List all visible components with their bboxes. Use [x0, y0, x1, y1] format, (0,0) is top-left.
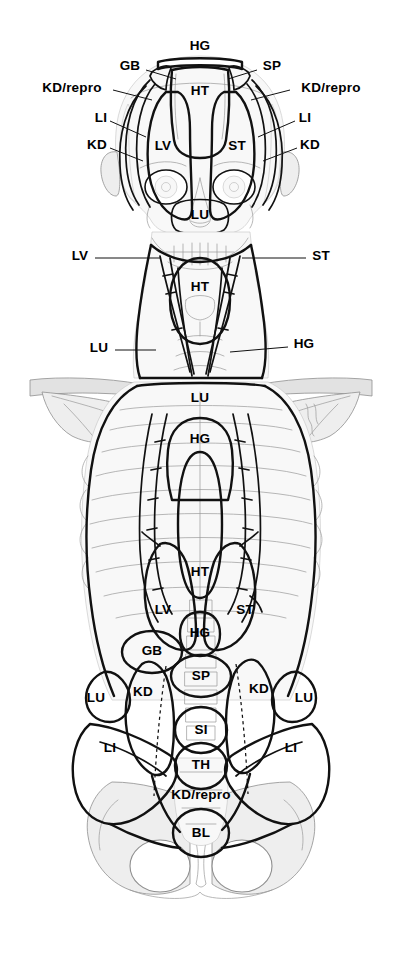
organ-label-lv-thorax: LV [155, 603, 172, 617]
organ-label-th-abdomen: TH [192, 758, 210, 772]
organ-label-ht-thorax: HT [191, 565, 209, 579]
organ-label-hg-thorax: HG [190, 432, 211, 446]
organ-label-lu-flank-left: LU [87, 691, 105, 705]
organ-label-li-pelvis-left: LI [104, 741, 116, 755]
organ-label-gb-head: GB [120, 59, 141, 73]
organ-label-lu-thorax-top: LU [191, 391, 209, 405]
organ-label-li-head-left: LI [95, 111, 107, 125]
organ-label-lu-head: LU [191, 208, 209, 222]
organ-label-st-neck: ST [312, 249, 330, 263]
organ-label-kd-abdomen-right: KD [249, 682, 269, 696]
organ-label-si-abdomen: SI [194, 723, 207, 737]
neck-region [133, 232, 269, 378]
organ-label-lv-head: LV [155, 139, 172, 153]
organ-label-ht-neck: HT [191, 280, 209, 294]
organ-label-kd-abdomen-left: KD [133, 685, 153, 699]
organ-label-gb-abdomen: GB [142, 644, 163, 658]
organ-label-kd-head-left: KD [87, 138, 107, 152]
organ-label-hg-abdomen: HG [190, 626, 211, 640]
organ-label-lu-flank-right: LU [295, 691, 313, 705]
organ-label-ht-head: HT [191, 84, 209, 98]
organ-label-li-head-right: LI [299, 111, 311, 125]
organ-label-kdrepro-pelvis: KD/repro [171, 788, 230, 802]
organ-label-st-thorax: ST [236, 603, 254, 617]
anatomical-diagram: .o { fill:none; stroke:#111; stroke-widt… [0, 0, 402, 958]
organ-label-kdrepro-head-left: KD/repro [42, 81, 101, 95]
organ-label-kd-head-right: KD [300, 138, 320, 152]
organ-label-st-head: ST [228, 139, 246, 153]
organ-label-sp-head: SP [263, 59, 281, 73]
organ-label-hg-neck: HG [294, 337, 315, 351]
body-outline-illustration: .o { fill:none; stroke:#111; stroke-widt… [0, 0, 402, 958]
organ-label-sp-abdomen: SP [192, 669, 210, 683]
organ-label-kdrepro-head-right: KD/repro [301, 81, 360, 95]
organ-label-hg-head-top: HG [190, 39, 211, 53]
organ-label-lu-neck: LU [90, 341, 108, 355]
organ-label-lv-neck: LV [72, 249, 89, 263]
organ-label-bl-pelvis: BL [192, 826, 210, 840]
organ-label-li-pelvis-right: LI [285, 741, 297, 755]
